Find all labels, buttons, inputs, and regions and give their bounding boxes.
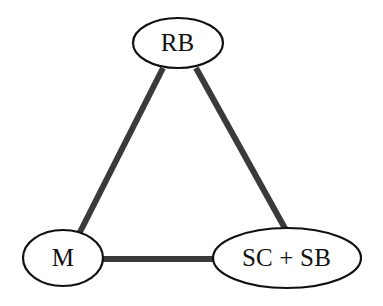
node-layer [23, 18, 361, 288]
node-m-shape[interactable] [23, 230, 103, 286]
diagram-graphics [0, 0, 383, 306]
diagram-canvas: RB M SC + SB [0, 0, 383, 306]
node-scsb-shape[interactable] [213, 228, 361, 288]
node-rb-shape[interactable] [133, 18, 223, 68]
edge-rb-m [79, 68, 163, 234]
edge-rb-scsb [196, 68, 287, 232]
